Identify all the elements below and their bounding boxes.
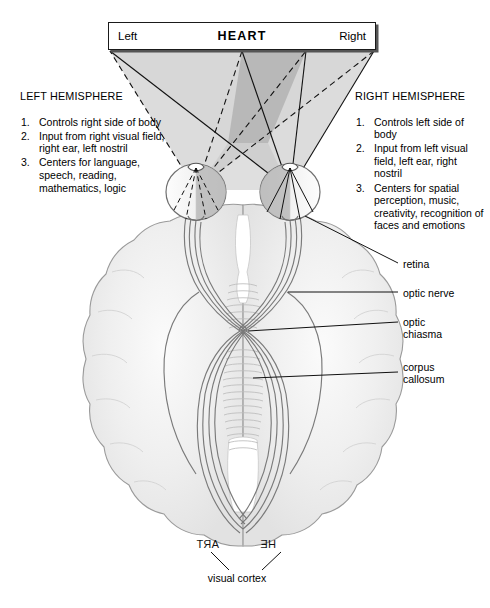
list-number: 1. [21, 116, 30, 129]
list-text: Centers for language, speech, reading, m… [39, 156, 140, 193]
right-hemisphere-panel: RIGHT HEMISPHERE 1. Controls left side o… [355, 90, 487, 233]
right-hemisphere-list: 1. Controls left side of body 2. Input f… [355, 116, 487, 232]
list-number: 3. [21, 156, 30, 169]
leader-cortex-left [211, 552, 229, 570]
right-hemisphere-item-3: 3. Centers for spatial perception, music… [355, 182, 487, 232]
list-text: Controls left side of body [374, 116, 464, 141]
list-number: 3. [356, 182, 365, 195]
list-number: 1. [356, 116, 365, 129]
callout-retina: retina [403, 258, 429, 270]
callout-corpus-callosum: corpus callosum [403, 361, 444, 386]
stimulus-box: Left HEART Right [108, 22, 376, 50]
list-text: Centers for spatial perception, music, c… [374, 182, 484, 232]
stimulus-right-label: Right [339, 28, 366, 45]
list-number: 2. [21, 130, 30, 143]
callout-optic-chiasma: optic chiasma [403, 316, 442, 341]
left-hemisphere-item-1: 1. Controls right side of body [20, 116, 172, 129]
leader-cortex-right [262, 552, 281, 570]
left-hemisphere-item-3: 3. Centers for language, speech, reading… [20, 156, 172, 194]
list-text: Input from right visual field, right ear… [39, 130, 164, 155]
callout-optic-nerve: optic nerve [403, 287, 454, 299]
left-hemisphere-list: 1. Controls right side of body 2. Input … [20, 116, 172, 195]
list-text: Controls right side of body [39, 116, 161, 128]
left-hemisphere-title: LEFT HEMISPHERE [20, 90, 172, 103]
list-text: Input from left visual field, left ear, … [374, 142, 468, 179]
right-hemisphere-item-1: 1. Controls left side of body [355, 116, 487, 141]
occipital-projection-right: HE [260, 538, 276, 550]
diagram-canvas: Left HEART Right LEFT HEMISPHERE 1. Cont… [0, 0, 490, 608]
list-number: 2. [356, 142, 365, 155]
brain-body-shape [83, 204, 243, 546]
right-hemisphere-item-2: 2. Input from left visual field, left ea… [355, 142, 487, 180]
stimulus-center-word: HEART [109, 28, 375, 45]
occipital-projection-left: ART [196, 538, 219, 550]
right-hemisphere-title: RIGHT HEMISPHERE [355, 90, 487, 103]
eye-right [260, 163, 320, 220]
callout-visual-cortex: visual cortex [202, 572, 272, 585]
brain-outline [83, 204, 403, 546]
left-hemisphere-panel: LEFT HEMISPHERE 1. Controls right side o… [20, 90, 172, 196]
eye-left [166, 163, 226, 220]
left-hemisphere-item-2: 2. Input from right visual field, right … [20, 130, 172, 155]
midline-ventricle [235, 215, 250, 303]
midline-brainstem-gap [228, 437, 259, 512]
